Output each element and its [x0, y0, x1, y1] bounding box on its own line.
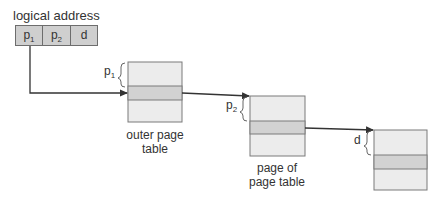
page-of-page-table	[250, 96, 305, 156]
field-p2-base: p	[51, 28, 58, 42]
inner-table-entry	[250, 121, 305, 134]
address-field-d: d	[70, 25, 98, 46]
p1-offset-sub: 1	[111, 71, 115, 80]
p1-offset-base: p	[104, 64, 111, 78]
d-brace	[364, 131, 371, 155]
p1-offset-label: p1	[104, 64, 115, 80]
field-p1-sub: 1	[30, 35, 34, 44]
p2-offset-label: p2	[226, 98, 237, 114]
p2-offset-base: p	[226, 98, 233, 112]
address-field-p2: p2	[42, 25, 71, 46]
outer-to-inner-arrow	[182, 93, 249, 96]
d-offset-label: d	[354, 133, 361, 147]
outer-page-table	[128, 62, 182, 122]
p2-brace	[240, 97, 247, 121]
inner-caption-line2: page table	[237, 175, 317, 189]
outer-caption-line1: outer page	[115, 128, 195, 142]
outer-table-entry	[128, 86, 182, 100]
page-entry	[374, 155, 427, 169]
inner-caption-line1: page of	[237, 161, 317, 175]
p2-offset-sub: 2	[233, 105, 237, 114]
p1-brace	[118, 63, 125, 87]
physical-page	[374, 130, 427, 190]
outer-caption-line2: table	[115, 142, 195, 156]
d-offset-base: d	[354, 133, 361, 147]
field-p2-sub: 2	[58, 35, 62, 44]
page-of-page-table-caption: page of page table	[237, 161, 317, 189]
logical-address-title: logical address	[13, 9, 100, 23]
address-field-p1: p1	[15, 25, 43, 46]
field-d-base: d	[81, 28, 88, 42]
inner-to-page-arrow	[305, 128, 373, 130]
outer-page-table-caption: outer page table	[115, 128, 195, 156]
